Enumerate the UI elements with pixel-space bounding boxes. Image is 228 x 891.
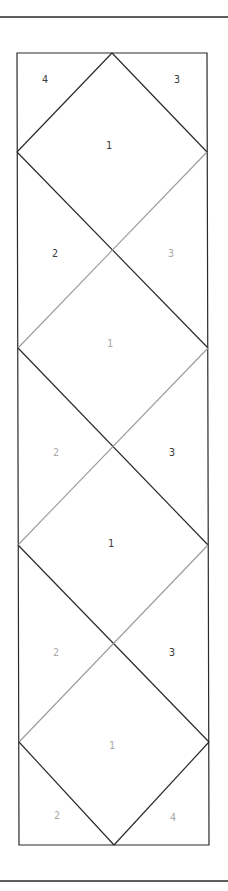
piece-number-label: 2 xyxy=(53,647,59,658)
piece-number-label: 1 xyxy=(108,538,114,549)
piece-number-label: 2 xyxy=(52,248,58,259)
outer-frame xyxy=(17,53,209,845)
piece-number-label: 4 xyxy=(42,74,48,85)
diagonal-line-9 xyxy=(114,742,209,845)
piece-number-label: 3 xyxy=(174,74,180,85)
piece-number-label: 1 xyxy=(109,740,115,751)
horizontal-rules xyxy=(0,17,228,881)
piece-number-label: 1 xyxy=(106,140,112,151)
piece-number-label: 2 xyxy=(53,447,59,458)
piece-number-label: 3 xyxy=(169,447,175,458)
piece-number-label: 2 xyxy=(54,810,60,821)
pattern-drawing: 43123123123124 xyxy=(0,0,228,891)
diagonal-line-8 xyxy=(19,742,114,845)
diagonal-line-0 xyxy=(17,53,112,152)
piece-number-label: 1 xyxy=(107,338,113,349)
diagonal-line-1 xyxy=(112,53,207,152)
piece-number-label: 3 xyxy=(169,647,175,658)
piece-number-label: 4 xyxy=(170,812,176,823)
diamond-lines xyxy=(17,53,209,845)
piece-number-label: 3 xyxy=(168,248,174,259)
